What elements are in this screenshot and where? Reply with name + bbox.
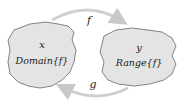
- domain-variable: x: [39, 39, 45, 50]
- range-label: Range{f}: [115, 57, 162, 68]
- arrow-g-label: g: [89, 78, 96, 91]
- function-mapping-diagram: f g x Domain{f} y Range{f}: [0, 0, 185, 102]
- range-variable: y: [135, 42, 142, 53]
- domain-label: Domain{f}: [15, 55, 69, 66]
- arrow-f-label: f: [86, 14, 93, 27]
